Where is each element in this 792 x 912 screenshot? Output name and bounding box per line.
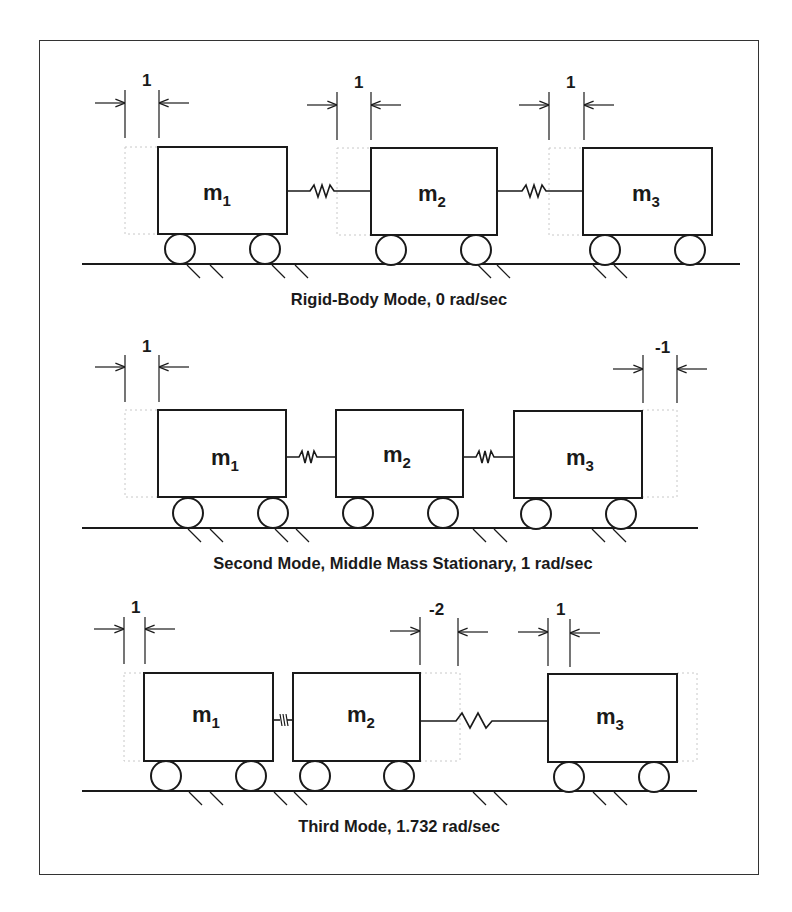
wheel — [606, 499, 636, 529]
ground-hatch — [188, 529, 626, 542]
spring-2-3-stretched — [420, 713, 548, 728]
displacement-dim-m1: 1 — [95, 337, 189, 402]
mass-m2: m2 — [371, 148, 497, 265]
displacement-dim-m1: 1 — [94, 598, 175, 664]
mass-m3: m3 — [514, 411, 642, 529]
mass-m3: m3 — [548, 674, 677, 792]
wheel — [300, 761, 330, 791]
svg-text:1: 1 — [142, 337, 151, 356]
wheel — [343, 498, 373, 528]
svg-text:1: 1 — [566, 73, 575, 92]
mass-m1: m1 — [158, 410, 288, 528]
mass-m3: m3 — [583, 148, 712, 265]
svg-text:1: 1 — [142, 71, 151, 90]
displacement-dim-m3: 1 — [519, 73, 614, 140]
wheel — [376, 235, 406, 265]
wheel — [165, 234, 195, 264]
svg-text:-1: -1 — [655, 338, 670, 357]
wheel — [675, 235, 705, 265]
wheel — [521, 499, 551, 529]
displacement-dim-m3: 1 — [518, 600, 600, 667]
spring-2-3 — [497, 185, 583, 197]
diagram-canvas: m1 m2 m3 1 — [0, 0, 792, 912]
svg-text:1: 1 — [556, 600, 565, 619]
wheel — [590, 235, 620, 265]
mode-shape-figure: m1 m2 m3 1 — [0, 0, 792, 912]
ground-hatch — [189, 792, 627, 805]
caption-rigid-body: Rigid-Body Mode, 0 rad/sec — [291, 290, 507, 308]
ground-hatch — [187, 265, 627, 278]
wheel — [461, 235, 491, 265]
svg-text:1: 1 — [354, 73, 363, 92]
wheel — [173, 498, 203, 528]
wheel — [258, 498, 288, 528]
mass-m2: m2 — [293, 673, 420, 791]
wheel — [151, 761, 181, 791]
wheel — [384, 761, 414, 791]
displacement-dim-m3: -1 — [613, 338, 707, 403]
displacement-dim-m2: 1 — [307, 73, 401, 140]
caption-third-mode: Third Mode, 1.732 rad/sec — [298, 817, 500, 835]
caption-second-mode: Second Mode, Middle Mass Stationary, 1 r… — [213, 554, 592, 572]
row-third-mode: m1 m2 m3 1 — [82, 598, 697, 835]
row-second-mode: m1 m2 m3 1 — [82, 337, 707, 572]
spring-1-2 — [287, 185, 371, 197]
spring-2-3 — [463, 451, 514, 463]
wheel — [554, 762, 584, 792]
svg-text:1: 1 — [131, 598, 140, 617]
row-rigid-body-mode: m1 m2 m3 1 — [82, 71, 740, 308]
wheel — [428, 498, 458, 528]
spring-1-2-compressed — [273, 714, 293, 726]
spring-1-2 — [286, 451, 336, 463]
displacement-dim-m1: 1 — [95, 71, 189, 138]
displacement-dim-m2: -2 — [390, 600, 488, 666]
mass-m1: m1 — [158, 147, 287, 264]
wheel — [250, 234, 280, 264]
wheel — [236, 761, 266, 791]
wheel — [639, 762, 669, 792]
svg-text:-2: -2 — [429, 600, 444, 619]
mass-m1: m1 — [144, 673, 273, 791]
mass-m2: m2 — [336, 410, 463, 528]
